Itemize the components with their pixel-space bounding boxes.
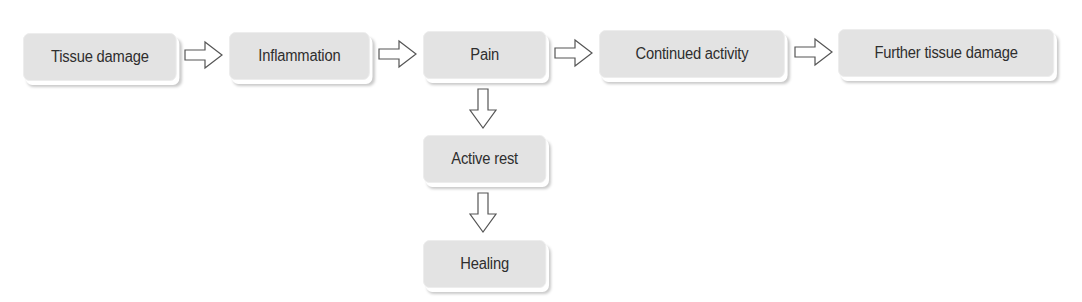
node-pain: Pain bbox=[423, 31, 546, 79]
node-label: Continued activity bbox=[635, 45, 748, 63]
node-label: Healing bbox=[460, 255, 509, 273]
node-further-tissue-damage: Further tissue damage bbox=[838, 29, 1054, 77]
node-label: Further tissue damage bbox=[874, 44, 1017, 62]
arrow-right-icon bbox=[554, 38, 594, 68]
node-label: Tissue damage bbox=[51, 48, 149, 66]
arrow-down-icon bbox=[468, 88, 498, 130]
arrow-right-icon bbox=[378, 39, 418, 69]
node-label: Pain bbox=[470, 46, 499, 64]
arrow-right-icon bbox=[794, 37, 834, 67]
arrow-right-icon bbox=[184, 40, 224, 70]
node-healing: Healing bbox=[423, 240, 546, 288]
node-tissue-damage: Tissue damage bbox=[23, 33, 177, 81]
arrow-down-icon bbox=[468, 192, 498, 234]
node-active-rest: Active rest bbox=[423, 135, 546, 183]
node-inflammation: Inflammation bbox=[229, 32, 370, 80]
node-continued-activity: Continued activity bbox=[599, 30, 785, 78]
node-label: Inflammation bbox=[258, 47, 340, 65]
node-label: Active rest bbox=[451, 150, 518, 168]
